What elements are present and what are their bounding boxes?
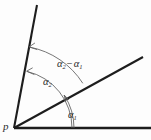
angle-label-alpha1: α1 [68,110,77,121]
diff-left-symbol: α [57,58,63,69]
diff-operator: − [66,58,74,69]
alpha2-symbol: α [43,76,49,87]
angle-label-alpha2: α2 [43,77,52,88]
vertex-label-p: p [3,121,9,132]
ray-alpha2 [14,5,37,128]
diff-right-subscript: 1 [79,63,82,70]
alpha2-subscript: 2 [49,81,52,88]
angle-label-alpha-difference: α2−α1 [57,59,82,70]
alpha1-subscript: 1 [74,114,77,121]
alpha1-symbol: α [68,109,74,120]
diff-left-subscript: 2 [63,63,66,70]
angle-diagram-figure: p α1 α2 α2−α1 [0,0,151,140]
